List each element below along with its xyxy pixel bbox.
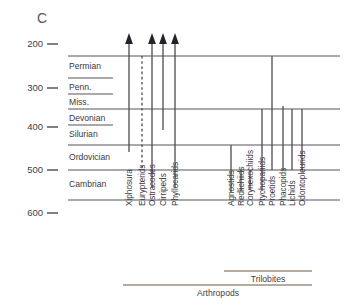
taxon-label-phyllocarids: Phyllocarids: [171, 162, 180, 206]
figure-panel: C 200 300 400 500 600: [0, 0, 345, 307]
taxon-label-redlichiids: Redlichiids: [237, 166, 246, 206]
period-label-penn: Penn.: [69, 82, 91, 92]
taxon-label-ostracodes: Ostracodes: [148, 164, 157, 206]
taxon-label-phacopids: Phacopids: [279, 168, 288, 206]
group-label-trilobites: Trilobites: [251, 274, 286, 284]
period-label-devonian: Devonian: [69, 113, 106, 123]
period-label-silurian: Silurian: [69, 129, 98, 139]
range-chart: C 200 300 400 500 600: [0, 0, 345, 307]
taxon-label-ptychopariids: Ptychopariids: [258, 157, 267, 206]
group-label-arthropods: Arthropods: [197, 288, 239, 298]
range-cirripeds[interactable]: [159, 33, 167, 130]
axis-tick-label: 400: [27, 121, 43, 132]
axis-tick-label: 500: [27, 164, 43, 175]
period-label-miss: Miss.: [69, 97, 89, 107]
period-label-permian: Permian: [69, 61, 101, 71]
period-label-ordovician: Ordovician: [69, 152, 110, 162]
range-arrow-icon: [125, 33, 133, 44]
taxon-label-corynexochiids: Corynexochiids: [246, 150, 255, 206]
panel-letter: C: [37, 10, 47, 26]
axis-tick-label: 200: [27, 38, 43, 49]
taxon-label-proetids: Proetids: [268, 176, 277, 206]
axis-tick-marks: [47, 44, 58, 213]
range-arrow-icon: [159, 33, 167, 44]
taxon-label-cirripeds: Cirripeds: [159, 173, 168, 206]
taxon-label-xiphosura: Xiphosura: [125, 169, 134, 206]
axis-tick-label: 600: [27, 207, 43, 218]
range-arrow-icon: [148, 33, 156, 44]
axis-tick-labels: 200 300 400 500 600: [27, 38, 43, 218]
group-bars: Trilobites Arthropods: [123, 271, 312, 298]
period-label-cambrian: Cambrian: [69, 179, 106, 189]
range-xiphosura[interactable]: [125, 33, 133, 152]
taxon-label-eurypterids: Eurypterids: [138, 165, 147, 206]
taxon-label-lichids: Lichids: [288, 181, 297, 207]
taxon-label-odontopleurids: Odontopleurids: [298, 150, 307, 206]
axis-tick-label: 300: [27, 82, 43, 93]
taxon-label-agnostids: Agnostids: [227, 170, 236, 206]
range-arrow-icon: [171, 33, 179, 44]
